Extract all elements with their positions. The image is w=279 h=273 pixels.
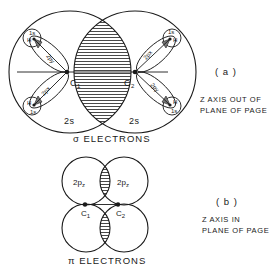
c2-2s-label: 2s [129,116,140,126]
c2-label: C2 [116,209,126,219]
c1-2s-label: 2s [64,116,75,126]
orbital-label: 2px [142,49,153,60]
panel-b-pi: C1 C2 2pz 2pz π ELECTRONS ( b ) Z AXIS I… [62,157,269,266]
c1-label: C1 [81,209,91,219]
h-1s-label: 1s [171,108,177,114]
h-1s-label: 1s [168,29,174,35]
panel-a-sigma: C1 C2 2py 2px 2px 2py 1s H H 1s 1s H H 1… [9,11,267,144]
h-label: H [27,37,31,43]
panel-b-axis-note-line1: Z AXIS IN [202,215,240,224]
sigma-caption: σ ELECTRONS [73,133,151,144]
h-1s-label: 1s [29,30,35,36]
h-label: H [173,37,177,43]
panel-b-axis-note-line2: PLANE OF PAGE [202,226,269,235]
orbital-diagram: C1 C2 2py 2px 2px 2py 1s H H 1s 1s H H 1… [0,0,279,273]
c1-2pz-label: 2pz [73,178,85,188]
c2-label: C2 [124,78,135,89]
c2-nucleus [133,70,138,75]
h-label: H [27,100,31,106]
orbital-label: 2py [45,53,56,64]
c1-nucleus [83,202,87,206]
panel-a-axis-note-line2: PLANE OF PAGE [200,106,267,115]
orbital-label: 2py [149,82,160,93]
panel-b-label: ( b ) [216,196,238,207]
c2-nucleus [116,202,120,206]
h-label: H [173,99,177,105]
c1-nucleus [65,70,70,75]
h-1s-label: 1s [30,109,36,115]
orbital-label: 2px [40,85,51,96]
panel-a-axis-note-line1: Z AXIS OUT OF [200,95,261,104]
panel-a-label: ( a ) [215,66,237,77]
pi-caption: π ELECTRONS [68,255,146,266]
c2-2pz-label: 2pz [117,178,129,188]
